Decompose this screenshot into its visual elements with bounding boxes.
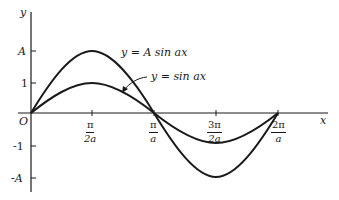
chart-canvas [0,0,339,200]
y-ticks [31,51,36,178]
x-tick-pi-over-a: π a [149,120,158,144]
x-axis-label: x [320,115,326,126]
y-tick-minus-1: -1 [13,141,24,152]
x-tick-2pi-over-a: 2π a [271,120,286,144]
y-tick-1: 1 [21,78,28,89]
x-tick-3pi-over-2a: 3π 2a [207,120,222,144]
origin-label: O [19,116,28,127]
y-tick-A: A [18,46,26,57]
annotation-sin-ax: y = sin ax [151,71,206,82]
x-tick-pi-over-2a: π 2a [84,120,96,144]
y-axis-label: y [20,7,26,18]
annotation-A-sin-ax: y = A sin ax [121,47,187,58]
y-tick-minus-A: -A [11,173,23,184]
